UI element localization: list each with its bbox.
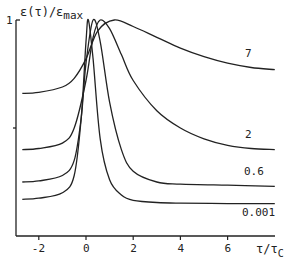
curve-label-2: 2 [245,129,252,140]
x-tick-label: 0 [83,243,90,254]
chart-plot-area [0,0,285,263]
x-tick-label: -2 [32,243,45,254]
y-axis-label: ε(τ)/εmax [20,6,83,18]
x-tick-label: 6 [225,243,232,254]
x-axis-label-sub: C [278,248,284,259]
curve-label-7: 7 [245,48,252,59]
curve-label-0.6: 0.6 [244,166,264,177]
x-tick-label: 4 [177,243,184,254]
curve-label-0.001: 0.001 [242,207,275,218]
curves [22,19,274,203]
x-axis-label-main: τ/τ [256,242,278,256]
curve-2 [22,20,274,150]
curve-7 [22,20,274,93]
x-tick-label: 2 [130,243,137,254]
x-axis-label: τ/τC [256,243,284,255]
y-axis-label-main: ε(τ)/ε [20,5,63,19]
y-axis-label-sub: max [63,9,83,22]
curve-0.6 [22,19,274,186]
y-axis-top-tick-label: 1 [6,15,13,26]
